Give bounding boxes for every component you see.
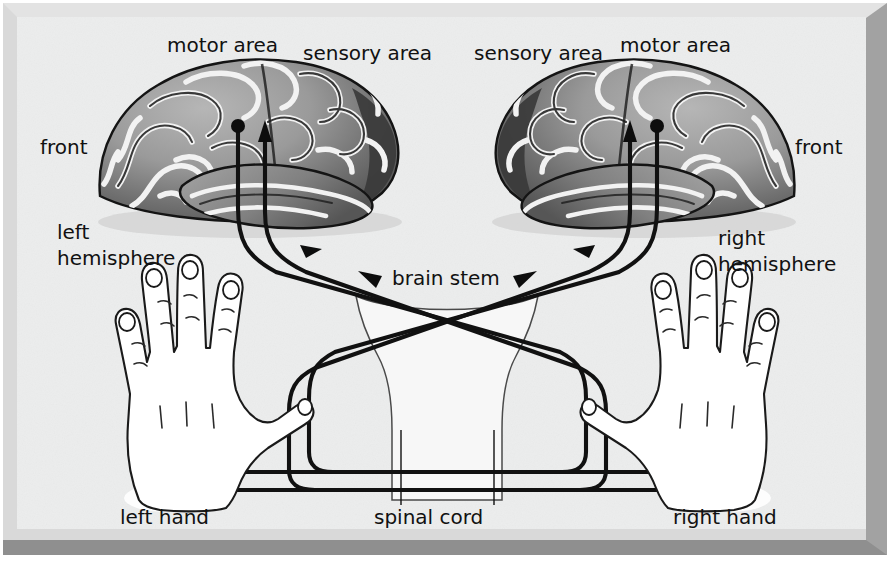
label-left-hemisphere-line1: left [57,220,90,244]
right-motor-origin-dot [650,119,664,133]
label-left-hemisphere-line2: hemisphere [57,246,175,270]
label-right-hand: right hand [673,505,777,529]
label-right-sensory-area: sensory area [474,41,603,65]
label-brain-stem: brain stem [392,266,500,290]
label-left-front: front [40,135,88,159]
label-spinal-cord: spinal cord [374,505,483,529]
label-right-hemisphere-line1: right [718,226,765,250]
label-left-sensory-area: sensory area [303,41,432,65]
label-right-front: front [795,135,843,159]
label-right-motor-area: motor area [620,33,731,57]
label-left-motor-area: motor area [167,33,278,57]
left-motor-origin-dot [231,119,245,133]
brain-pathway-figure: motor area sensory area sensory area mot… [0,0,894,563]
label-left-hand: left hand [120,505,209,529]
label-right-hemisphere-line2: hemisphere [718,252,836,276]
